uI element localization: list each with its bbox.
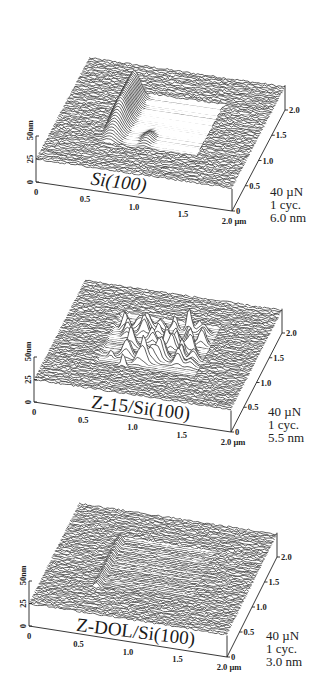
x-tick-label: 1.5 (178, 209, 189, 219)
afm-panel-3: 02550nm00.51.01.52.0 µm00.51.01.52.0Z-DO… (18, 503, 302, 672)
x-tick-label: 1.5 (176, 430, 187, 440)
afm-panel-1: 02550nm00.51.01.52.0 µm00.51.01.52.0Si(1… (25, 58, 306, 226)
z-tick-label: 0 (18, 624, 28, 628)
y-tick-label: 1.5 (273, 353, 284, 363)
y-tick-label: 2.0 (281, 552, 292, 562)
y-tick-label: 0 (231, 652, 235, 662)
x-tick-label: 0.5 (80, 194, 91, 204)
test-condition-label: 5.5 nm (268, 430, 304, 445)
x-tick-label: 0 (32, 407, 36, 417)
y-tick-label: 1.0 (256, 602, 267, 612)
x-tick-label: 2.0 µm (222, 216, 247, 226)
z-unit-label: nm (19, 565, 28, 576)
y-tick-label: 0 (235, 427, 239, 437)
z-tick-label: 50 (23, 353, 33, 362)
z-tick-label: 25 (25, 155, 35, 164)
x-tick-label: 1.0 (127, 422, 138, 432)
y-tick-label: 1.5 (269, 577, 280, 587)
z-tick-label: 25 (23, 375, 33, 384)
y-tick-label: 0 (236, 206, 240, 216)
y-tick-label: 2.0 (289, 105, 300, 115)
z-tick-label: 0 (25, 180, 35, 184)
x-tick-label: 1.0 (123, 647, 134, 657)
z-tick-label: 25 (18, 599, 28, 608)
x-tick-label: 1.5 (172, 654, 183, 664)
y-tick-label: 1.0 (263, 156, 274, 166)
x-tick-label: 0.5 (73, 639, 84, 649)
y-tick-label: 0.5 (249, 181, 260, 191)
z-tick-label: 0 (23, 400, 33, 404)
z-tick-label: 50 (25, 132, 35, 141)
z-unit-label: nm (24, 341, 33, 352)
y-tick-label: 1.5 (276, 130, 287, 140)
afm-panel-2: 02550nm00.51.01.52.0 µm00.51.01.52.0Z-15… (23, 280, 304, 447)
x-tick-label: 1.0 (129, 202, 140, 212)
test-condition-label: 6.0 nm (270, 210, 306, 225)
y-tick-label: 1.0 (261, 378, 272, 388)
y-tick-label: 0.5 (244, 627, 255, 637)
z-unit-label: nm (26, 120, 35, 131)
x-tick-label: 0 (27, 631, 31, 641)
test-condition-label: 3.0 nm (266, 654, 302, 669)
y-tick-label: 0.5 (248, 402, 259, 412)
x-tick-label: 2.0 µm (217, 662, 242, 672)
x-tick-label: 2.0 µm (221, 437, 246, 447)
z-tick-label: 50 (18, 577, 28, 586)
x-tick-label: 0.5 (78, 415, 89, 425)
afm-figure: 02550nm00.51.01.52.0 µm00.51.01.52.0Si(1… (0, 0, 321, 694)
y-tick-label: 2.0 (286, 328, 297, 338)
x-tick-label: 0 (34, 187, 38, 197)
